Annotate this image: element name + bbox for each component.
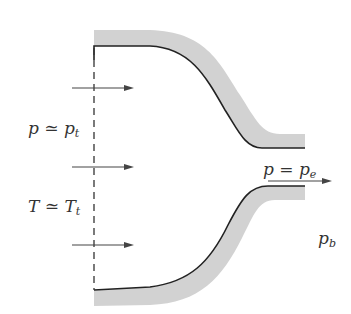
nozzle-diagram: p ≃ pt T ≃ Tt p = pe pb (0, 0, 351, 314)
inlet-temperature-label: T ≃ Tt (28, 198, 80, 217)
inlet-pressure-label: p ≃ pt (28, 120, 79, 139)
inlet-arrow-2 (72, 164, 134, 170)
exit-pressure-label: p = pe (263, 161, 316, 180)
inlet-arrow-1 (72, 85, 134, 91)
nozzle-drawing (0, 0, 351, 314)
inlet-arrow-3 (72, 242, 134, 248)
back-pressure-label: pb (318, 230, 336, 249)
